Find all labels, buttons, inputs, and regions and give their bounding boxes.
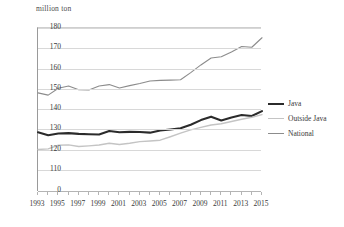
legend-item: National — [268, 126, 344, 141]
legend-line-swatch — [268, 118, 284, 119]
x-axis-tick — [220, 192, 221, 195]
y-axis-tick-label: 180 — [35, 22, 61, 31]
x-axis-tick — [180, 192, 181, 195]
chart-legend: JavaOutside JavaNational — [268, 96, 344, 141]
x-axis-tick-label: 2015 — [250, 199, 272, 208]
x-axis-tick — [129, 192, 130, 195]
x-axis-tick — [241, 192, 242, 195]
x-axis-tick — [37, 192, 38, 195]
x-axis-tick-label: 1999 — [87, 199, 109, 208]
y-axis-tick-label: 130 — [35, 123, 61, 132]
x-axis-tick-label: 1995 — [46, 199, 68, 208]
gridline — [38, 129, 261, 130]
y-axis-tick-label: 110 — [35, 164, 61, 173]
x-axis-tick — [159, 192, 160, 195]
x-axis-tick — [251, 192, 252, 195]
gridline — [38, 109, 261, 110]
gridline — [38, 69, 261, 70]
x-axis-tick-labels: 1993199519971999200120032005200720092011… — [30, 199, 270, 211]
gridline — [38, 48, 261, 49]
legend-item-label: Java — [288, 99, 301, 108]
x-axis-tick — [230, 192, 231, 195]
x-axis-tick — [88, 192, 89, 195]
x-axis-tick — [98, 192, 99, 195]
x-axis-tick — [190, 192, 191, 195]
y-axis-tick-label: 120 — [35, 144, 61, 153]
gridline — [38, 150, 261, 151]
x-axis-tick — [47, 192, 48, 195]
y-axis-tick-label: 150 — [35, 83, 61, 92]
x-axis-tick-label: 2013 — [230, 199, 252, 208]
series-line — [38, 111, 262, 135]
x-axis-tick — [118, 192, 119, 195]
plot-area — [37, 27, 261, 191]
x-axis-tick-label: 1997 — [67, 199, 89, 208]
figure-caption — [8, 219, 338, 227]
legend-item-label: Outside Java — [288, 114, 327, 123]
x-axis-tick — [139, 192, 140, 195]
x-axis-tick — [169, 192, 170, 195]
y-axis-unit-label: million ton — [36, 4, 71, 13]
x-axis-tick-label: 1993 — [26, 199, 48, 208]
legend-line-swatch — [268, 133, 284, 134]
x-axis-tick — [261, 192, 262, 195]
x-axis-tick-label: 2001 — [107, 199, 129, 208]
legend-item: Outside Java — [268, 111, 344, 126]
series-line — [38, 38, 262, 95]
x-axis-tick — [57, 192, 58, 195]
x-axis-tick — [68, 192, 69, 195]
x-axis-tick — [108, 192, 109, 195]
gridline — [38, 89, 261, 90]
y-axis-tick-label: 140 — [35, 103, 61, 112]
chart-figure: million ton 0110120130140150160170180 19… — [0, 0, 344, 227]
x-axis-tick — [200, 192, 201, 195]
x-axis-tick-label: 2007 — [169, 199, 191, 208]
x-axis-tick-label: 2009 — [189, 199, 211, 208]
x-axis-tick — [78, 192, 79, 195]
x-axis-tick — [210, 192, 211, 195]
legend-line-swatch — [268, 103, 284, 105]
y-axis-tick-label: 160 — [35, 63, 61, 72]
x-axis-tick-label: 2003 — [128, 199, 150, 208]
y-axis-tick-label: 170 — [35, 42, 61, 51]
gridline — [38, 170, 261, 171]
legend-item: Java — [268, 96, 344, 111]
gridline — [38, 28, 261, 29]
x-axis-tick-label: 2011 — [209, 199, 231, 208]
legend-item-label: National — [288, 129, 314, 138]
x-axis-tick — [149, 192, 150, 195]
x-axis-tick-label: 2005 — [148, 199, 170, 208]
